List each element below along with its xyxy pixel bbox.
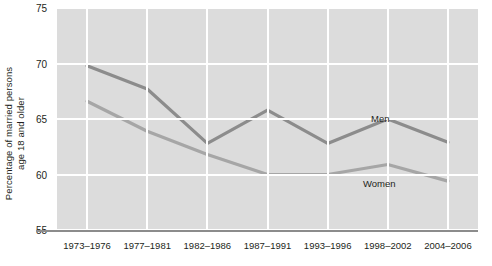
plot-area xyxy=(57,8,478,230)
vgrid-line xyxy=(327,8,329,230)
x-tick-label: 1977–1981 xyxy=(123,240,171,251)
y-axis-label-line-2: age 18 and older xyxy=(15,66,27,199)
x-axis-line xyxy=(36,230,478,232)
x-tick-label: 1973–1976 xyxy=(63,240,111,251)
series-label-men: Men xyxy=(371,113,389,124)
y-tick-label: 75 xyxy=(36,3,56,14)
x-tick-label: 1982–1986 xyxy=(184,240,232,251)
y-tick-label: 70 xyxy=(36,58,56,69)
y-axis-label: Percentage of married persons age 18 and… xyxy=(0,28,30,238)
vgrid-line xyxy=(447,8,449,230)
vgrid-line xyxy=(86,8,88,230)
y-tick-label: 60 xyxy=(36,169,56,180)
x-tick-label: 1993–1996 xyxy=(304,240,352,251)
x-tick-label: 1987–1991 xyxy=(244,240,292,251)
vgrid-line xyxy=(206,8,208,230)
line-chart: Percentage of married persons age 18 and… xyxy=(0,0,492,266)
x-tick-label: 2004–2006 xyxy=(424,240,472,251)
x-tick-label: 1998–2002 xyxy=(364,240,412,251)
vgrid-line xyxy=(267,8,269,230)
vgrid-line xyxy=(146,8,148,230)
y-axis-label-line-1: Percentage of married persons xyxy=(4,66,16,199)
series-label-women: Women xyxy=(363,178,396,189)
y-tick-label: 65 xyxy=(36,114,56,125)
